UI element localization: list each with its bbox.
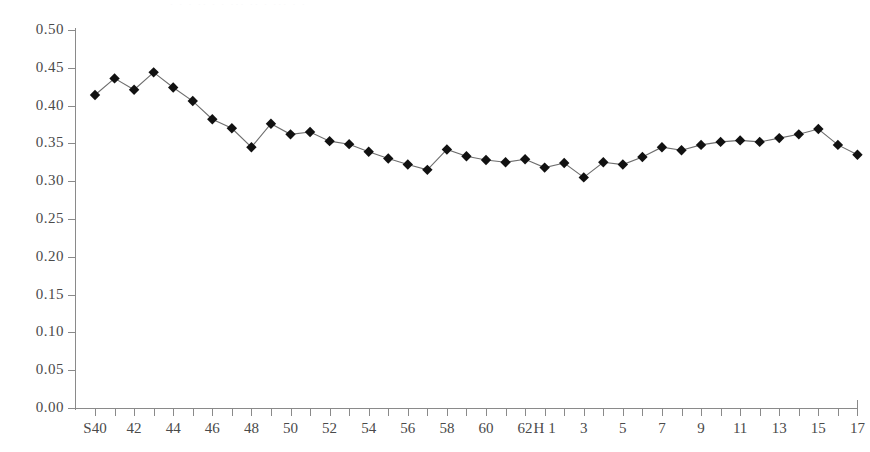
data-point-marker xyxy=(715,137,725,147)
data-point-marker xyxy=(364,147,374,157)
line-chart-plot: 0.500.450.400.350.300.250.200.150.100.05… xyxy=(0,0,870,452)
data-point-marker xyxy=(305,127,315,137)
data-point-marker xyxy=(696,140,706,150)
data-point-marker xyxy=(735,135,745,145)
data-point-marker xyxy=(324,136,334,146)
chart-root: · · · ·· · · ··· ·· · ··· · · 0.500.450.… xyxy=(0,0,870,452)
data-point-marker xyxy=(598,157,608,167)
data-point-marker xyxy=(559,158,569,168)
data-point-marker xyxy=(539,162,549,172)
data-point-marker xyxy=(168,82,178,92)
data-point-marker xyxy=(657,142,667,152)
series-line xyxy=(95,72,857,177)
data-point-marker xyxy=(520,154,530,164)
data-series xyxy=(0,0,870,452)
data-point-marker xyxy=(852,150,862,160)
data-point-marker xyxy=(383,153,393,163)
data-point-marker xyxy=(676,145,686,155)
data-point-marker xyxy=(579,172,589,182)
data-point-marker xyxy=(637,152,647,162)
data-point-marker xyxy=(285,129,295,139)
data-point-marker xyxy=(344,139,354,149)
data-point-marker xyxy=(794,129,804,139)
data-point-marker xyxy=(618,159,628,169)
data-point-marker xyxy=(461,151,471,161)
series-markers xyxy=(90,67,863,182)
data-point-marker xyxy=(500,157,510,167)
data-point-marker xyxy=(755,137,765,147)
data-point-marker xyxy=(481,155,491,165)
data-point-marker xyxy=(403,159,413,169)
data-point-marker xyxy=(774,133,784,143)
